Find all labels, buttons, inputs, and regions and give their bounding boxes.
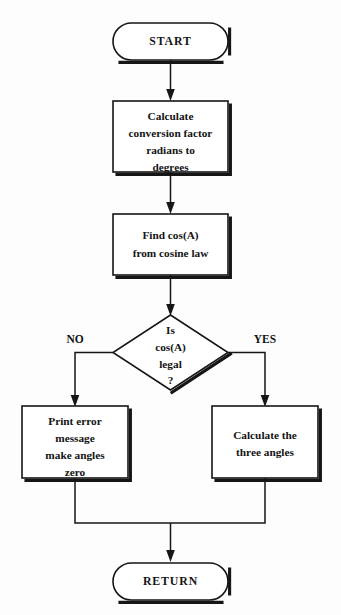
node-error: Print error message make angles zero [22,406,130,480]
decision-line-4: ? [168,374,174,386]
error-line-4: zero [65,466,86,478]
conversion-line-3: radians to [146,144,195,156]
node-return: RETURN [113,563,230,602]
angles-shape [212,406,318,478]
decision-line-2: cos(A) [155,341,186,354]
return-label: RETURN [143,574,198,588]
start-label: START [149,34,192,48]
cosine-shape [113,214,228,275]
branch-label-yes: YES [254,333,276,345]
error-line-1: Print error [48,415,101,427]
connector-cosine-to-decision [166,275,175,316]
conversion-line-4: degrees [152,161,189,173]
connector-yes-branch: YES [228,333,276,407]
conversion-line-1: Calculate [148,110,194,122]
connector-line [75,353,113,398]
connector-conversion-to-cosine [166,172,175,214]
decision-line-1: Is [166,324,175,336]
arrow-down-icon [166,550,175,562]
flowchart-canvas: START Calculate conversion factor radian… [0,0,341,615]
angles-line-1: Calculate the [233,429,297,441]
arrow-down-icon [166,89,175,101]
node-start: START [113,23,230,62]
cosine-line-1: Find cos(A) [142,229,198,242]
angles-line-2: three angles [236,446,294,458]
node-angles: Calculate the three angles [212,406,320,480]
decision-line-3: legal [159,358,182,370]
conversion-line-2: conversion factor [129,127,213,139]
cosine-line-2: from cosine law [133,247,210,259]
error-line-2: message [55,432,95,444]
connector-merge-rail [75,478,265,523]
connector-merge-to-return [75,478,265,562]
branch-label-no: NO [66,333,83,345]
node-cosine: Find cos(A) from cosine law [113,214,230,277]
connector-line [228,353,265,398]
connector-no-branch: NO [66,333,113,407]
arrow-down-icon [166,202,175,214]
node-conversion: Calculate conversion factor radians to d… [113,101,230,174]
node-decision: Is cos(A) legal ? [113,315,230,392]
flowchart-page: START Calculate conversion factor radian… [0,0,341,615]
connector-start-to-conversion [166,60,175,101]
error-line-3: make angles [45,449,105,461]
